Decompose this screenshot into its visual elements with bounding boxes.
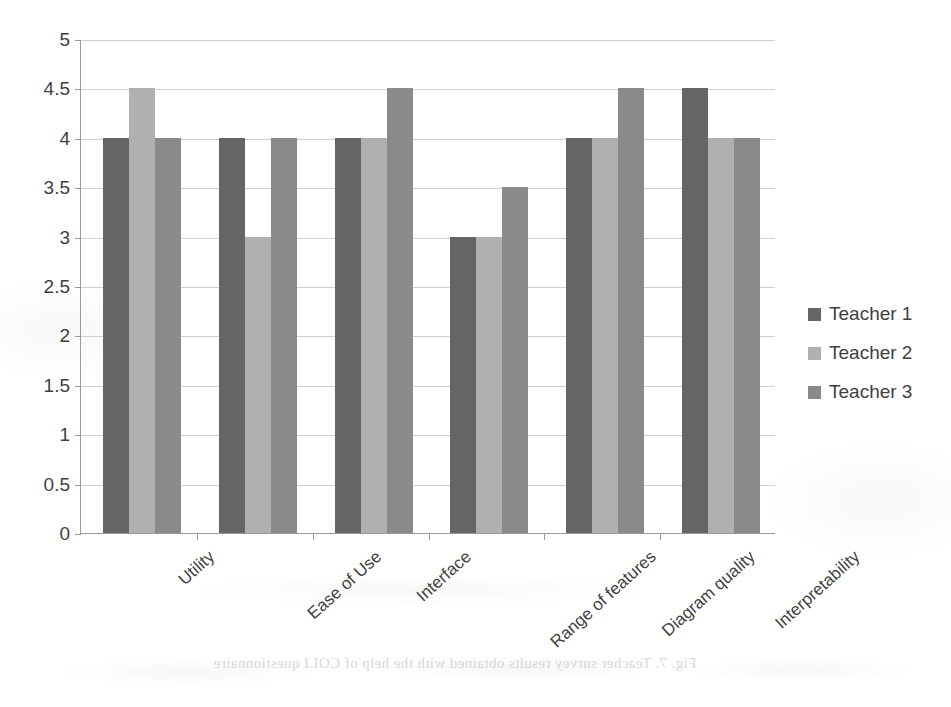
bar <box>734 138 760 533</box>
bar <box>129 88 155 533</box>
chart-legend: Teacher 1Teacher 2Teacher 3 <box>808 303 912 403</box>
bar <box>682 88 708 533</box>
x-axis-label: Range of features <box>547 547 661 652</box>
bar <box>219 138 245 533</box>
x-axis-label: Ease of Use <box>304 547 386 624</box>
y-axis-tick <box>75 534 81 535</box>
bar <box>450 237 476 533</box>
legend-item: Teacher 1 <box>808 303 912 325</box>
legend-item: Teacher 2 <box>808 342 912 364</box>
x-axis-tick <box>313 533 314 540</box>
legend-label: Teacher 1 <box>829 303 912 325</box>
bar <box>476 237 502 533</box>
legend-swatch-icon <box>808 347 821 360</box>
legend-item: Teacher 3 <box>808 381 912 403</box>
bar <box>103 138 129 533</box>
y-axis-label: 3.5 <box>44 177 70 199</box>
bar <box>335 138 361 533</box>
bar <box>592 138 618 533</box>
bar <box>271 138 297 533</box>
y-axis-label: 1.5 <box>44 375 70 397</box>
bar <box>245 237 271 533</box>
x-axis-label: Interpretability <box>771 547 864 633</box>
y-axis-label: 0.5 <box>44 474 70 496</box>
bar <box>502 187 528 533</box>
bar <box>618 88 644 533</box>
x-axis-tick <box>660 533 661 540</box>
bar <box>155 138 181 533</box>
x-axis-label: Diagram quality <box>658 547 759 641</box>
y-axis-label: 4.5 <box>44 78 70 100</box>
legend-label: Teacher 2 <box>829 342 912 364</box>
bar-series-container <box>81 40 775 533</box>
y-axis-label: 0 <box>59 523 70 545</box>
bar <box>387 88 413 533</box>
bar-chart: 00.511.522.533.544.55 UtilityEase of Use… <box>0 0 951 707</box>
bar <box>566 138 592 533</box>
y-axis-label: 4 <box>59 128 70 150</box>
x-axis-label: Interface <box>413 547 476 606</box>
x-axis-tick <box>429 533 430 540</box>
legend-label: Teacher 3 <box>829 381 912 403</box>
y-axis-label: 2.5 <box>44 276 70 298</box>
x-axis-label: Utility <box>175 547 219 590</box>
bar <box>708 138 734 533</box>
y-axis-label: 2 <box>59 325 70 347</box>
x-axis-tick <box>197 533 198 540</box>
legend-swatch-icon <box>808 308 821 321</box>
y-axis-label: 1 <box>59 424 70 446</box>
legend-swatch-icon <box>808 386 821 399</box>
y-axis-label: 5 <box>59 29 70 51</box>
bar <box>361 138 387 533</box>
y-axis-label: 3 <box>59 227 70 249</box>
plot-area: 00.511.522.533.544.55 UtilityEase of Use… <box>80 40 775 534</box>
x-axis-tick <box>544 533 545 540</box>
